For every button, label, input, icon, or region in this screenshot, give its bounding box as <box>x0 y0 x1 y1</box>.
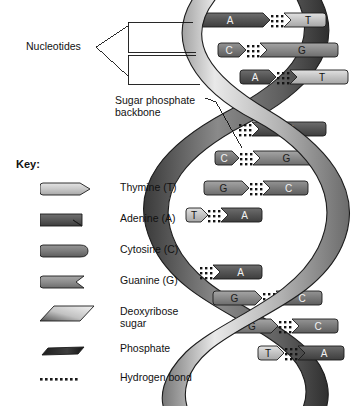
key-item-label-line1: Adenine (A) <box>120 212 175 224</box>
nucleotide-bracket-lower <box>128 55 200 84</box>
cytosine-shape <box>40 242 96 260</box>
cytosine-shape <box>40 242 96 260</box>
key-title: Key: <box>16 158 178 170</box>
backbone-label-line1: Sugar phosphate <box>115 94 195 106</box>
key-item-label-line1: Guanine (G) <box>120 274 178 286</box>
sugar-shape <box>40 304 96 322</box>
key-item-phosphate: Phosphate <box>8 341 178 367</box>
key-item-label: Deoxyribosesugar <box>120 305 178 329</box>
key-item-label-line1: Cytosine (C) <box>120 243 178 255</box>
key-rows: Thymine (T)Adenine (A)Cytosine (C)Guanin… <box>8 180 178 395</box>
key-item-label: Cytosine (C) <box>120 243 178 255</box>
hbond-dots <box>40 370 96 388</box>
dna-diagram: ATCGATACGGCTAAGCGCTA Nucleotides Sugar p… <box>0 0 351 406</box>
key-item-hydrogen-bond: Hydrogen bond <box>8 370 178 396</box>
key-item-adenine: Adenine (A) <box>8 211 178 237</box>
thymine-shape <box>40 180 96 198</box>
phosphate-shape <box>40 341 96 359</box>
nucleotides-label: Nucleotides <box>26 40 81 52</box>
key-item-label-line1: Thymine (T) <box>120 181 177 193</box>
backbone-label: Sugar phosphate backbone <box>115 94 195 118</box>
key-item-label: Phosphate <box>120 342 170 354</box>
sugar-shape <box>40 304 96 322</box>
nucleotide-leader <box>96 26 128 76</box>
backbone-leader <box>205 98 242 148</box>
key-item-label-line2: sugar <box>120 317 178 329</box>
key-item-label: Hydrogen bond <box>120 371 192 383</box>
key-item-deoxyribose: Deoxyribosesugar <box>8 304 178 330</box>
key-item-label: Thymine (T) <box>120 181 177 193</box>
thymine-shape <box>40 180 96 198</box>
key-item-label: Adenine (A) <box>120 212 175 224</box>
hbond-dots <box>40 370 96 388</box>
key-item-label: Guanine (G) <box>120 274 178 286</box>
key-item-cytosine: Cytosine (C) <box>8 242 178 268</box>
adenine-shape <box>40 211 96 229</box>
key-item-thymine: Thymine (T) <box>8 180 178 206</box>
key-item-guanine: Guanine (G) <box>8 273 178 299</box>
key-item-label-line1: Deoxyribose <box>120 305 178 317</box>
guanine-shape <box>40 273 96 291</box>
backbone-label-line2: backbone <box>115 106 195 118</box>
adenine-shape <box>40 211 96 229</box>
nucleotide-bracket-upper <box>128 22 196 52</box>
key-panel: Key: Thymine (T)Adenine (A)Cytosine (C)G… <box>8 158 178 395</box>
guanine-shape <box>40 273 96 291</box>
key-item-label-line1: Hydrogen bond <box>120 371 192 383</box>
phosphate-shape <box>40 341 96 359</box>
key-item-label-line1: Phosphate <box>120 342 170 354</box>
